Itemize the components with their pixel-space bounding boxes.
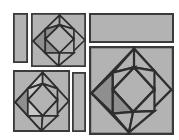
panel-bottom-left-dissection[interactable] xyxy=(13,70,70,132)
panel-rect xyxy=(90,14,173,42)
panel-top-middle-graphic xyxy=(31,13,86,67)
panel-top-left-bar-graphic xyxy=(13,13,28,63)
panel-rect xyxy=(73,73,85,131)
panel-top-left-bar[interactable] xyxy=(13,13,28,63)
panel-top-right-graphic xyxy=(89,13,174,43)
figure-root xyxy=(0,0,179,140)
panel-bottom-right-dissection[interactable] xyxy=(89,46,174,135)
panel-bottom-right-graphic xyxy=(89,46,174,135)
panel-bottom-left-graphic xyxy=(13,70,70,132)
panel-bottom-middle-bar[interactable] xyxy=(72,72,86,132)
panel-bottom-middle-graphic xyxy=(72,72,86,132)
panel-top-right-bar[interactable] xyxy=(89,13,174,43)
panel-rect xyxy=(14,14,27,62)
panel-top-middle-dissection[interactable] xyxy=(31,13,86,67)
